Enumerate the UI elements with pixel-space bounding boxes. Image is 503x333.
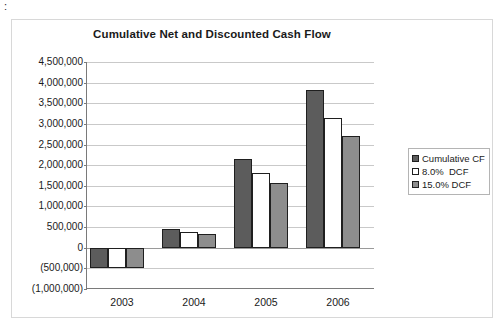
y-tick-mark xyxy=(84,206,87,207)
y-axis-tick-label: (500,000) xyxy=(40,263,83,273)
y-tick-mark xyxy=(84,145,87,146)
bar-2003-series-0[interactable] xyxy=(90,248,108,268)
y-axis-tick-label: 1,500,000 xyxy=(39,181,84,191)
y-tick-mark xyxy=(84,62,87,63)
y-tick-mark xyxy=(84,83,87,84)
y-axis-tick-label: 2,500,000 xyxy=(39,140,84,150)
legend-item-0[interactable]: Cumulative CF xyxy=(412,152,485,165)
gridline xyxy=(87,268,374,269)
y-axis-tick-label: 500,000 xyxy=(47,222,83,232)
bar-2004-series-2[interactable] xyxy=(198,234,216,248)
y-axis-tick-label: 2,000,000 xyxy=(39,160,84,170)
gridline xyxy=(87,103,374,104)
y-tick-mark xyxy=(84,165,87,166)
y-axis-tick-label: 0 xyxy=(77,243,83,253)
chart-title: Cumulative Net and Discounted Cash Flow xyxy=(12,28,412,40)
y-tick-mark xyxy=(84,103,87,104)
x-axis-tick-label: 2005 xyxy=(230,297,302,308)
y-axis-tick-label: 3,000,000 xyxy=(39,119,84,129)
x-axis-tick-label: 2006 xyxy=(302,297,374,308)
plot-area xyxy=(86,62,374,289)
y-axis-tick-label: (1,000,000) xyxy=(32,284,83,294)
bar-2003-series-2[interactable] xyxy=(126,248,144,268)
chart-frame: Cumulative Net and Discounted Cash Flow … xyxy=(11,19,493,318)
y-tick-mark xyxy=(84,227,87,228)
bar-2005-series-2[interactable] xyxy=(270,183,288,248)
legend-item-2[interactable]: 15.0% DCF xyxy=(412,178,485,191)
y-axis-tick-label: 1,000,000 xyxy=(39,201,84,211)
y-tick-mark xyxy=(84,186,87,187)
bar-2004-series-0[interactable] xyxy=(162,229,180,248)
y-tick-mark xyxy=(84,268,87,269)
bar-2006-series-0[interactable] xyxy=(306,90,324,248)
legend-swatch-icon xyxy=(412,181,419,188)
bar-2004-series-1[interactable] xyxy=(180,232,198,248)
legend-label: 8.0% DCF xyxy=(422,167,468,177)
x-axis-tick-label: 2003 xyxy=(86,297,158,308)
chart-legend: Cumulative CF8.0% DCF15.0% DCF xyxy=(408,148,490,195)
y-tick-mark xyxy=(84,289,87,290)
y-axis-tick-label: 4,500,000 xyxy=(39,57,84,67)
bar-2006-series-2[interactable] xyxy=(342,136,360,247)
bar-2005-series-0[interactable] xyxy=(234,159,252,248)
y-axis-tick-label: 3,500,000 xyxy=(39,98,84,108)
legend-label: Cumulative CF xyxy=(422,154,485,164)
legend-swatch-icon xyxy=(412,155,419,162)
x-axis-tick-label: 2004 xyxy=(158,297,230,308)
bar-2005-series-1[interactable] xyxy=(252,173,270,248)
y-tick-mark xyxy=(84,124,87,125)
legend-item-1[interactable]: 8.0% DCF xyxy=(412,165,485,178)
legend-label: 15.0% DCF xyxy=(422,180,471,190)
y-tick-mark xyxy=(84,248,87,249)
stray-colon-mark: : xyxy=(4,0,7,12)
gridline xyxy=(87,83,374,84)
y-axis-tick-label: 4,000,000 xyxy=(39,78,84,88)
bar-2006-series-1[interactable] xyxy=(324,118,342,248)
legend-swatch-icon xyxy=(412,168,419,175)
y-axis-labels: 4,500,0004,000,0003,500,0003,000,0002,50… xyxy=(12,62,83,289)
bar-2003-series-1[interactable] xyxy=(108,248,126,268)
gridline xyxy=(87,62,374,63)
